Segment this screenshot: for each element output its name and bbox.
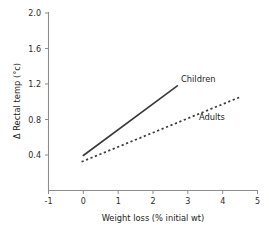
series-label-children: Children: [181, 74, 216, 84]
y-axis-tick-labels: 2.0 1.6 1.2 0.8 0.4: [28, 9, 41, 160]
y-tick-label-0.8: 0.8: [28, 116, 41, 125]
x-tick-label-5: 5: [255, 197, 260, 206]
series-line-children: [83, 86, 177, 156]
x-tick-label-0: 0: [81, 197, 86, 206]
y-axis-title: Δ Rectal temp (°c): [12, 63, 22, 139]
x-axis-title: Weight loss (% initial wt): [102, 213, 205, 223]
y-tick-label-2.0: 2.0: [28, 9, 41, 18]
y-tick-label-0.4: 0.4: [28, 151, 41, 160]
series-line-adults: [82, 97, 240, 162]
y-tick-label-1.2: 1.2: [28, 80, 41, 89]
chart-figure: 2.0 1.6 1.2 0.8 0.4 -1 0 1 2 3 4 5 Weigh…: [0, 0, 269, 235]
y-tick-label-1.6: 1.6: [28, 45, 41, 54]
chart-plot-area: 2.0 1.6 1.2 0.8 0.4 -1 0 1 2 3 4 5 Weigh…: [0, 0, 269, 235]
x-tick-label-4: 4: [220, 197, 225, 206]
x-tick-label-1: 1: [116, 197, 121, 206]
series-label-adults: Adults: [199, 112, 225, 122]
x-axis-tick-labels: -1 0 1 2 3 4 5: [45, 197, 261, 206]
x-tick-label-3: 3: [185, 197, 190, 206]
x-tick-label-minus1: -1: [45, 197, 53, 206]
x-tick-label-2: 2: [150, 197, 155, 206]
